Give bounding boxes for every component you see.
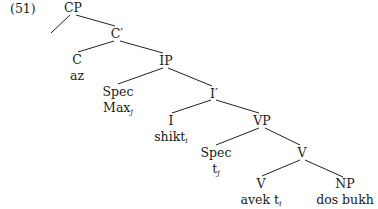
example-number: (51)	[10, 2, 36, 16]
edge-cbar-c	[78, 41, 114, 52]
tree-edges	[0, 0, 378, 209]
node-v-bar: V	[297, 146, 306, 160]
node-spec-ip: Spec	[103, 85, 134, 99]
edge-cp-cbar	[76, 15, 115, 26]
node-ip: IP	[159, 54, 172, 68]
edge-vp-vbar	[265, 128, 300, 145]
edge-vbar-v	[262, 160, 300, 176]
word-avek: avek ti	[240, 193, 281, 209]
word-az: az	[70, 69, 84, 83]
word-trace-j: tj	[212, 162, 220, 180]
word-max: Maxj	[103, 101, 133, 119]
edge-cbar-ip	[120, 41, 163, 53]
edge-ip-ibar	[168, 68, 212, 86]
word-shikt: shikti	[154, 130, 188, 148]
word-dos-bukh: dos bukh	[316, 193, 374, 207]
node-spec-vp: Spec	[201, 146, 232, 160]
edge-ip-spec	[118, 68, 163, 84]
node-v: V	[256, 177, 265, 191]
edge-vbar-np	[305, 160, 343, 177]
node-np: NP	[335, 177, 354, 191]
edge-ibar-i	[172, 100, 211, 113]
edge-ibar-vp	[216, 100, 259, 113]
node-i: I	[169, 114, 174, 128]
edge-vp-spec	[216, 128, 259, 145]
node-i-bar: I′	[210, 87, 218, 101]
node-c: C	[72, 53, 82, 67]
node-cp: CP	[64, 1, 82, 15]
node-vp: VP	[253, 114, 270, 128]
node-c-bar: C′	[111, 27, 123, 41]
edge-cp-empty	[51, 15, 70, 33]
